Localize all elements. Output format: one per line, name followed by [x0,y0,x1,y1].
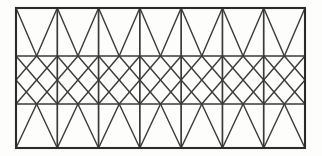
bottom-band-bay-4-diag-left [181,104,202,148]
bottom-band-bay-2-diag-left [99,104,120,148]
top-band-bay-4-diag-left [181,8,202,56]
bottom-band-bay-6-diag-left [264,104,285,148]
bottom-band-bay-0-diag-left [16,104,37,148]
lattice-diagram-svg [0,0,322,156]
top-band-bay-0-diag-left [16,8,37,56]
top-band-bay-6-diag-left [264,8,285,56]
bottom-band-bay-6-diag-right [284,104,305,148]
bottom-band-bay-2-diag-right [119,104,140,148]
bottom-band-bay-3-diag-right [161,104,182,148]
top-band-bay-2-diag-left [99,8,120,56]
lattice-diagram-canvas [0,0,322,156]
bottom-band-bay-1-diag-left [57,104,78,148]
top-band-bay-5-diag-left [222,8,243,56]
top-band-bay-3-diag-left [140,8,161,56]
top-band-bay-6-diag-right [284,8,305,56]
top-band-bay-4-diag-right [202,8,223,56]
top-band-bay-5-diag-right [243,8,264,56]
top-band-bay-1-diag-right [78,8,99,56]
top-band-bay-3-diag-right [161,8,182,56]
top-band-bay-0-diag-right [37,8,58,56]
bottom-band-bay-5-diag-right [243,104,264,148]
bottom-band-bay-3-diag-left [140,104,161,148]
bottom-band-bay-0-diag-right [37,104,58,148]
top-band-bay-2-diag-right [119,8,140,56]
bottom-band-bay-1-diag-right [78,104,99,148]
bottom-band-bay-5-diag-left [222,104,243,148]
top-band-bay-1-diag-left [57,8,78,56]
diagonal-bracing-group [16,8,305,148]
bottom-band-bay-4-diag-right [202,104,223,148]
